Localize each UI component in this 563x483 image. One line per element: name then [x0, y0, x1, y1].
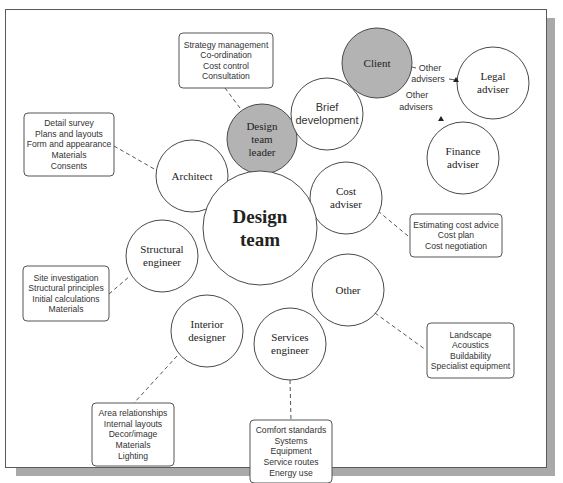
- design-team-label: Design: [233, 206, 288, 227]
- design-team-leader-label: Design: [246, 120, 278, 132]
- other-advisers-label: advisers: [399, 102, 433, 112]
- cost-adviser-label: Cost: [336, 185, 356, 197]
- note-item: Cost negotiation: [425, 241, 487, 251]
- note-item: Specialist equipment: [431, 361, 511, 371]
- note-item: Lighting: [118, 451, 148, 461]
- architect-duties-connector: [114, 146, 156, 170]
- finance-adviser-label: Finance: [446, 145, 481, 157]
- note-item: Equipment: [270, 446, 312, 456]
- services-engineer-duties-connector: [290, 380, 291, 420]
- note-item: Decor/image: [109, 429, 158, 439]
- note-item: Initial calculations: [32, 294, 99, 304]
- note-item: Energy use: [269, 468, 313, 478]
- note-item: Materials: [52, 150, 87, 160]
- structural-engineer-duties-box: Site investigationStructural principlesI…: [23, 266, 109, 321]
- note-item: Estimating cost advice: [413, 220, 499, 230]
- structural-engineer-label: Structural: [140, 243, 183, 255]
- design-team-node: Designteam: [203, 171, 317, 285]
- architect-label: Architect: [172, 170, 213, 182]
- legal-adviser-label: adviser: [477, 83, 509, 95]
- design-team-leader-duties-box: Strategy managementCo-ordinationCost con…: [179, 33, 273, 88]
- design-team-label: team: [240, 229, 280, 250]
- other-duties-box: LandscapeAcousticsBuildabilitySpecialist…: [427, 323, 514, 378]
- interior-designer-label: Interior: [191, 318, 224, 330]
- note-item: Buildability: [450, 351, 492, 361]
- design-team-leader-duties-connector: [225, 88, 240, 108]
- other-label: Other: [335, 284, 360, 296]
- diagram-stage: Strategy managementCo-ordinationCost con…: [0, 0, 563, 483]
- interior-designer-node: Interiordesigner: [171, 295, 243, 367]
- note-item: Materials: [49, 304, 84, 314]
- note-item: Service routes: [264, 457, 319, 467]
- note-item: Plans and layouts: [35, 129, 103, 139]
- note-item: Landscape: [449, 330, 491, 340]
- note-item: Internal layouts: [104, 419, 162, 429]
- client-to-finance: Otheradvisers: [399, 90, 444, 121]
- interior-designer-duties-connector: [134, 356, 177, 403]
- note-item: Cost plan: [438, 230, 475, 240]
- structural-engineer-duties-connector: [109, 276, 130, 294]
- note-item: Strategy management: [184, 40, 269, 50]
- client-to-legal: Otheradvisers: [411, 63, 459, 84]
- brief-development-node: Briefdevelopment: [291, 78, 363, 150]
- note-item: Area relationships: [99, 408, 168, 418]
- other-advisers-label: Other: [406, 90, 429, 100]
- services-engineer-duties-box: Comfort standardsSystemsEquipmentService…: [250, 420, 332, 483]
- link-dash: [449, 79, 455, 80]
- design-team-center: Designteam: [203, 171, 317, 285]
- legal-adviser-node: Legaladviser: [457, 47, 529, 119]
- services-engineer-label: engineer: [271, 344, 309, 356]
- note-item: Detail survey: [44, 118, 94, 128]
- interior-designer-duties-box: Area relationshipsInternal layoutsDecor/…: [92, 403, 174, 466]
- cost-adviser-label: adviser: [330, 198, 362, 210]
- note-item: Materials: [116, 440, 151, 450]
- arrowhead-icon: [438, 116, 444, 121]
- cost-adviser-node: Costadviser: [310, 162, 382, 234]
- client-node: Client: [342, 28, 412, 98]
- architect-duties-box: Detail surveyPlans and layoutsForm and a…: [24, 113, 114, 176]
- cost-adviser-duties-connector: [378, 211, 408, 236]
- interior-designer-label: designer: [188, 331, 226, 343]
- note-item: Co-ordination: [200, 50, 252, 60]
- cost-adviser-duties-box: Estimating cost adviceCost planCost nego…: [410, 214, 502, 257]
- services-engineer-node: Servicesengineer: [254, 308, 326, 380]
- note-item: Site investigation: [34, 273, 99, 283]
- note-item: Structural principles: [28, 283, 103, 293]
- note-item: Consultation: [202, 71, 250, 81]
- finance-adviser-node: Financeadviser: [427, 122, 499, 194]
- other-duties-connector: [375, 313, 426, 350]
- design-team-diagram: Strategy managementCo-ordinationCost con…: [0, 0, 563, 483]
- note-item: Comfort standards: [256, 425, 327, 435]
- design-team-leader-label: team: [251, 133, 273, 145]
- client-label: Client: [364, 57, 391, 69]
- structural-engineer-node: Structuralengineer: [126, 220, 198, 292]
- finance-adviser-label: adviser: [447, 158, 479, 170]
- note-item: Cost control: [203, 61, 249, 71]
- link-dash: [412, 67, 416, 68]
- note-item: Systems: [275, 436, 308, 446]
- other-advisers-label: Other: [419, 63, 442, 73]
- brief-development-label: development: [296, 114, 359, 126]
- other-advisers-label: advisers: [411, 74, 445, 84]
- design-team-leader-label: leader: [249, 146, 276, 158]
- note-item: Consents: [51, 161, 87, 171]
- brief-development-label: Brief: [316, 101, 340, 113]
- note-item: Acoustics: [452, 340, 489, 350]
- structural-engineer-label: engineer: [143, 256, 181, 268]
- design-team-leader-node: Designteamleader: [227, 104, 297, 174]
- other-node: Other: [312, 254, 384, 326]
- note-item: Form and appearance: [27, 139, 112, 149]
- services-engineer-label: Services: [271, 331, 308, 343]
- legal-adviser-label: Legal: [480, 70, 505, 82]
